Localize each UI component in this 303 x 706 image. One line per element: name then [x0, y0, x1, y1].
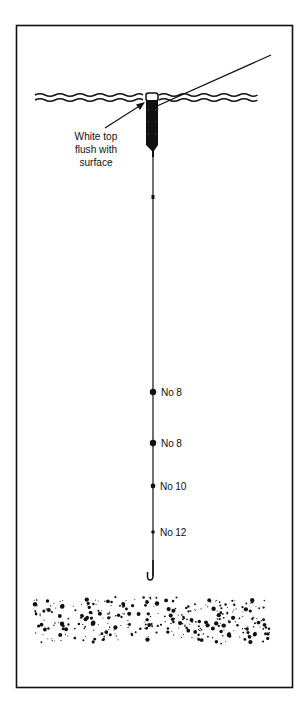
float-white-tip	[146, 93, 158, 101]
shot-marker	[150, 389, 156, 395]
callout-label: White top flush with surface	[68, 130, 124, 169]
rig-diagram: White top flush with surface No 8 No 8 N…	[0, 0, 303, 706]
diagram-canvas	[0, 0, 303, 706]
shot-marker	[150, 440, 156, 446]
shot-label: No 10	[160, 480, 186, 493]
shot-marker	[151, 530, 155, 534]
float-body	[146, 100, 158, 157]
callout-line-2: flush with	[68, 143, 124, 156]
shot-label: No 12	[160, 526, 186, 539]
float-stop	[152, 195, 155, 199]
callout-line-3: surface	[68, 156, 124, 169]
line-to-rod	[157, 55, 271, 106]
callout-arrow	[105, 102, 145, 128]
gravel-bed	[33, 596, 270, 644]
shot-label: No 8	[161, 386, 182, 399]
callout-line-1: White top	[68, 130, 124, 143]
float	[146, 93, 158, 157]
shot-marker	[151, 484, 156, 489]
shot-label: No 8	[161, 437, 182, 450]
hook	[148, 560, 154, 580]
